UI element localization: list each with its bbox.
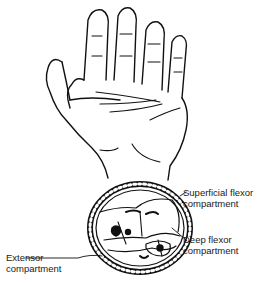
- label-superficial-flexor-compartment: Superficial flexor compartment: [183, 187, 253, 209]
- label-line: compartment: [183, 198, 253, 209]
- label-line: Superficial flexor: [183, 187, 253, 198]
- label-line: compartment: [183, 245, 238, 256]
- fingers: [84, 8, 187, 98]
- label-extensor-compartment: Extensor compartment: [6, 252, 61, 274]
- label-line: Deep flexor: [183, 234, 238, 245]
- palm: [46, 60, 187, 180]
- label-line: compartment: [6, 263, 61, 274]
- label-line: Extensor: [6, 252, 61, 263]
- label-deep-flexor-compartment: Deep flexor compartment: [183, 234, 238, 256]
- wrist-cross-section: [90, 184, 190, 272]
